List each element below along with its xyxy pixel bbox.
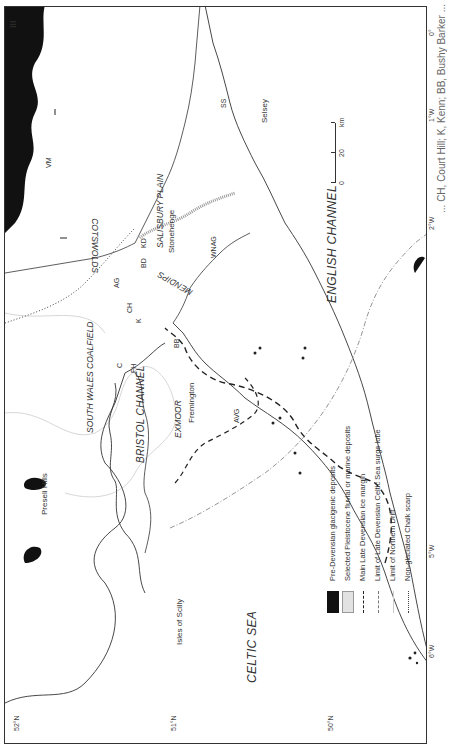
glacigenic-deposit [5, 6, 45, 233]
map-frame: CELTIC SEA BRISTOL CHANNEL ENGLISH CHANN… [4, 6, 427, 744]
label-south-wales-coalfield: SOUTH WALES COALFIELD [85, 322, 95, 433]
legend-item: Limit of Late Devensian Celtic Sea surge… [370, 426, 385, 613]
map-graphic [5, 6, 427, 743]
site-bd: BD [140, 258, 147, 268]
site-wnag: WNAG [210, 236, 217, 258]
site-fh: FH [130, 364, 137, 373]
lon-tick-0: 0° [428, 29, 435, 36]
site-ag: AG [113, 278, 120, 288]
rotated-figure: CELTIC SEA BRISTOL CHANNEL ENGLISH CHANN… [0, 0, 461, 748]
scale-bar: 0 20 km [325, 113, 355, 183]
lat-tick-51: 51°N [170, 715, 177, 731]
label-bristol-channel: BRISTOL CHANNEL [135, 366, 146, 464]
site-avg: AVG [233, 409, 240, 423]
dash-dot-swatch [372, 591, 384, 613]
lon-tick-1w: 1°W [428, 109, 435, 122]
label-cotswolds: COTSWOLDS [90, 218, 100, 273]
legend-label: Non-glaciated Chalk scarp [403, 493, 412, 581]
lon-tick-6w: 6°W [428, 645, 435, 658]
legend-item: Pre-Devensian glacigenic deposits [325, 426, 340, 613]
bold-dash-swatch [357, 591, 369, 613]
label-english-channel: ENGLISH CHANNEL [325, 185, 339, 303]
legend-label: Limit of Late Devensian Celtic Sea surge… [373, 429, 382, 581]
label-celtic-sea: CELTIC SEA [245, 611, 259, 683]
stipple-fill-swatch [342, 591, 354, 613]
chalk-scarp [5, 228, 135, 323]
lon-tick-2w: 2°W [428, 217, 435, 230]
legend-label: Limit of Northern Drift [388, 510, 397, 581]
scale-tick-20: 20 [338, 149, 345, 157]
faint-line-swatch [387, 591, 399, 613]
figure-caption: ... CH, Court Hill; K, Kenn; BB, Bushy B… [436, 4, 447, 744]
label-selsey: Selsey [260, 99, 269, 123]
label-preseli-hills: Preseli Hills [40, 473, 49, 515]
site-ch: CH [126, 303, 133, 313]
legend-item: Limit of Northern Drift [385, 426, 400, 613]
site-k: K [135, 318, 142, 323]
lon-tick-5w: 5°W [428, 545, 435, 558]
dotted-line-swatch [402, 591, 414, 613]
label-salisbury-plain: SALISBURY PLAIN [155, 174, 165, 248]
lat-tick-50: 50°N [327, 715, 334, 731]
site-ss: SS [220, 99, 227, 108]
legend-item: Selected Pleistocene fluvial or marine d… [340, 426, 355, 613]
site-vm: VM [45, 158, 52, 169]
legend: Pre-Devensian glacigenic deposits Select… [325, 426, 415, 613]
legend-label: Pre-Devensian glacigenic deposits [328, 466, 337, 581]
corner-mark: III [8, 20, 18, 28]
label-stonehenge: Stonehenge [167, 210, 176, 253]
label-exmoor: EXMOOR [173, 400, 183, 438]
legend-item: Non-glaciated Chalk scarp [400, 426, 415, 613]
scale-unit: km [338, 118, 345, 127]
legend-label: Main Late Devensian ice margin [358, 474, 367, 581]
legend-item: Main Late Devensian ice margin [355, 426, 370, 613]
legend-label: Selected Pleistocene fluvial or marine d… [343, 426, 352, 581]
scale-tick-0: 0 [338, 181, 345, 185]
solid-fill-swatch [327, 591, 339, 613]
site-bb: BB [173, 339, 180, 348]
label-fremington: Fremington [187, 383, 196, 423]
site-c: C [116, 363, 123, 368]
lat-tick-52: 52°N [13, 715, 20, 731]
site-kd: KD [140, 238, 147, 248]
label-isles-of-scilly: Isles of Scilly [175, 599, 184, 645]
